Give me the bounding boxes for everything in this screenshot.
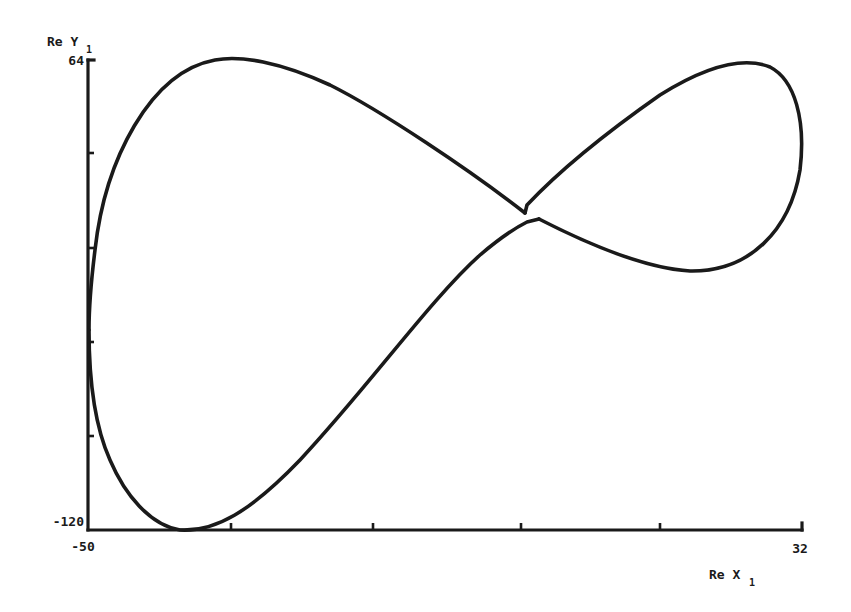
- y-min-tick-label: -120: [53, 514, 84, 529]
- axes: [88, 60, 802, 530]
- phase-plot: Re Y 1 64 -120 -50 32 Re X 1: [0, 0, 851, 612]
- trajectory-curve: [89, 58, 802, 530]
- x-max-tick-label: 32: [792, 541, 808, 556]
- y-max-tick-label: 64: [68, 53, 84, 68]
- x-axis-label-text: Re X: [709, 567, 740, 582]
- x-axis-label-subscript: 1: [749, 577, 755, 588]
- y-axis-label-text: Re Y: [47, 34, 78, 49]
- x-min-tick-label: -50: [71, 539, 95, 554]
- y-axis-label: Re Y 1: [47, 34, 92, 55]
- x-axis-label: Re X 1: [709, 567, 755, 588]
- y-axis-label-subscript: 1: [86, 44, 92, 55]
